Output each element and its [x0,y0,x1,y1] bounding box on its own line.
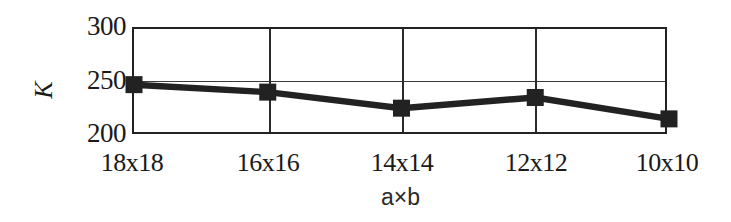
line-chart-figure: K 300 250 200 18x18 16x16 14x14 12x12 10… [0,0,731,222]
plot-area [132,27,667,134]
x-tick-label-12x12: 12x12 [466,150,606,176]
data-point-marker [393,100,410,117]
x-axis-title-text: a×b [381,186,420,209]
x-tick-label-16x16: 16x16 [198,150,338,176]
x-axis-title: a×b [0,186,731,209]
y-tick-label-200: 200 [60,120,126,147]
x-tick-label-18x18: 18x18 [62,150,202,176]
x-tick-label-14x14: 14x14 [332,150,472,176]
data-point-marker [527,89,544,106]
data-point-marker [661,110,678,127]
y-tick-label-250: 250 [60,67,126,94]
series-markers [126,76,678,127]
data-series-k [120,15,683,150]
x-tick-label-10x10: 10x10 [597,150,731,176]
y-tick-label-300: 300 [60,13,126,40]
data-point-marker [259,84,276,101]
data-point-marker [126,76,143,93]
